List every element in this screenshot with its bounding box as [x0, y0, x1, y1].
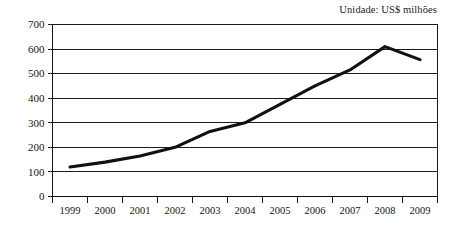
y-tick-label: 200	[28, 141, 45, 153]
x-tick-label: 2009	[410, 205, 431, 216]
x-tick-label: 2007	[340, 205, 361, 216]
gridlines-group	[53, 25, 438, 172]
y-tick-label: 500	[28, 67, 45, 79]
y-tick-label: 400	[28, 92, 45, 104]
y-tick-label: 300	[28, 117, 45, 129]
y-axis-ticks: 0100200300400500600700	[28, 18, 53, 202]
x-tick-label: 2006	[305, 205, 326, 216]
data-series-group	[70, 47, 420, 167]
x-tick-label: 2000	[95, 205, 116, 216]
x-tick-label: 2003	[200, 205, 221, 216]
y-tick-label: 700	[28, 18, 45, 30]
x-tick-label: 2002	[165, 205, 186, 216]
x-tick-label: 2004	[235, 205, 257, 216]
y-tick-label: 0	[39, 190, 45, 202]
x-tick-label: 2001	[130, 205, 151, 216]
x-tick-label: 2005	[270, 205, 291, 216]
y-tick-label: 100	[28, 166, 45, 178]
x-tick-label: 1999	[60, 205, 81, 216]
x-tick-label: 2008	[375, 205, 396, 216]
chart-figure: Unidade: US$ milhões 0100200300400500600…	[0, 0, 455, 230]
series-line	[70, 47, 420, 167]
y-tick-label: 600	[28, 43, 45, 55]
x-axis-ticks: 1999200020012002200320042005200620072008…	[53, 197, 438, 216]
line-chart-plot: 0100200300400500600700 19992000200120022…	[0, 0, 455, 230]
